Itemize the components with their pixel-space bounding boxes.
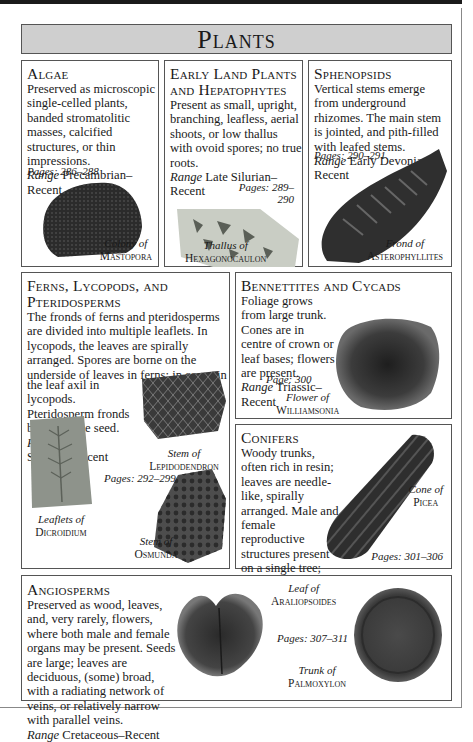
palmoxylon-caption: Trunk of Palmoxylon — [288, 664, 346, 690]
algae-heading: Algae — [27, 66, 157, 82]
algae-pages: Pages: 286–288 — [27, 165, 99, 177]
algae-description: Preserved as microscopic single-celled p… — [27, 82, 157, 168]
frame-border-right — [461, 8, 462, 708]
early-land-description: Present as small, upright, branching, le… — [170, 98, 302, 170]
ferns-heading-1: Ferns, Lycopods, and — [27, 278, 227, 294]
section-bennettites-cycads: Bennettites and Cycads Foliage grows fro… — [235, 272, 452, 419]
sphenopsids-caption: Frond of Asterophyllites — [367, 237, 443, 263]
dicroidium-caption: Leaflets of Dicroidium — [28, 513, 94, 539]
early-land-pages: Pages: 289– 290 — [239, 181, 294, 205]
araliopsoides-caption: Leaf of Araliopsoides — [271, 582, 336, 608]
conifers-pages: Pages: 301–306 — [371, 550, 443, 562]
picea-caption: Cone of Picea — [408, 483, 443, 509]
williamsonia-caption: Flower of Williamsonia — [276, 391, 339, 417]
section-sphenopsids: Sphenopsids Vertical stems emerge from u… — [308, 60, 452, 267]
early-land-heading-2: and Hepatophytes — [170, 82, 302, 98]
sphenopsids-description: Vertical stems emerge from underground r… — [314, 82, 452, 154]
angiosperms-heading: Angiosperms — [27, 582, 177, 598]
early-land-heading-1: Early Land Plants — [170, 66, 302, 82]
angiosperms-description: Preserved as wood, leaves, and, very rar… — [27, 598, 177, 728]
palmoxylon-trunk-fossil-image — [352, 586, 444, 684]
top-rule — [0, 0, 462, 4]
section-early-land-plants: Early Land Plants and Hepatophytes Prese… — [164, 60, 303, 267]
bennettites-heading: Bennettites and Cycads — [241, 278, 451, 294]
ferns-heading-2: Pteridosperms — [27, 294, 227, 310]
section-conifers: Conifers Woody trunks, often rich in res… — [235, 424, 452, 569]
bennettites-description: Foliage grows from large trunk. Cones ar… — [241, 294, 337, 380]
section-angiosperms: Angiosperms Preserved as wood, leaves, a… — [21, 575, 452, 701]
sphenopsids-heading: Sphenopsids — [314, 66, 452, 82]
dicroidium-fossil-image — [28, 416, 94, 510]
bennettites-pages: Page: 300 — [266, 373, 312, 385]
angiosperms-range: Cretaceous–Recent — [62, 728, 159, 742]
page-title: Plants — [197, 25, 275, 54]
araliopsoides-leaf-fossil-image — [172, 586, 266, 678]
section-ferns-lycopods-pteridosperms: Ferns, Lycopods, and Pteridosperms The f… — [21, 272, 230, 569]
section-algae: Algae Preserved as microscopic single-ce… — [21, 60, 159, 267]
lepidodendron-fossil-image — [138, 371, 228, 439]
algae-caption: Colony of Mastopora — [100, 237, 152, 263]
williamsonia-fossil-image — [331, 313, 443, 413]
angiosperms-pages: Pages: 307–311 — [277, 632, 348, 644]
osmunda-caption: Stem of Osmunda — [126, 535, 186, 561]
page-title-bar: Plants — [21, 24, 452, 54]
early-land-caption: Thallus of Hexagonocaulon — [185, 239, 266, 265]
